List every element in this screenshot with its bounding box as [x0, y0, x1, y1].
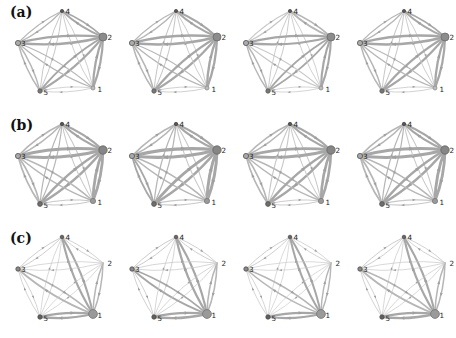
node-label-1: 1 — [440, 311, 445, 320]
arrowhead-1-5 — [401, 204, 404, 207]
node-label-3: 3 — [363, 265, 368, 274]
node-label-2: 2 — [108, 33, 113, 42]
network-panel-b4: 42153 — [342, 113, 456, 225]
node-label-4: 4 — [180, 120, 185, 129]
network-panel-a3: 42153 — [228, 0, 342, 112]
edge-3-5 — [18, 43, 40, 91]
node-label-3: 3 — [249, 152, 254, 161]
node-label-3: 3 — [135, 152, 140, 161]
edge-3-5 — [360, 43, 382, 91]
node-label-4: 4 — [294, 7, 299, 16]
node-label-3: 3 — [249, 265, 254, 274]
arrowhead-5-4 — [162, 267, 164, 270]
node-label-2: 2 — [222, 146, 227, 155]
edge-3-2 — [18, 262, 103, 269]
edge-2-1 — [207, 263, 217, 314]
figure: (a) 42153 42153 42153 42153 (b) 42153 42… — [0, 0, 456, 338]
edge-3-5 — [132, 43, 154, 91]
node-label-2: 2 — [108, 259, 113, 268]
node-2 — [99, 33, 107, 41]
node-4 — [288, 9, 291, 12]
node-label-4: 4 — [66, 120, 71, 129]
node-1 — [89, 310, 98, 319]
arrowhead-5-4 — [390, 267, 392, 270]
network-panel-b2: 42153 — [114, 113, 228, 225]
arrowhead-4-1 — [82, 54, 84, 57]
node-label-1: 1 — [212, 198, 217, 207]
node-4 — [402, 9, 405, 12]
node-3 — [243, 40, 248, 45]
arrowhead-3-5 — [32, 295, 34, 298]
node-label-4: 4 — [294, 120, 299, 129]
edge-2-1 — [321, 37, 331, 88]
row-label-a: (a) — [10, 4, 32, 20]
edge-5-3 — [246, 43, 268, 91]
node-1 — [433, 86, 437, 90]
node-5 — [38, 202, 43, 207]
edge-3-5 — [246, 43, 268, 91]
node-3 — [243, 153, 248, 158]
node-label-5: 5 — [44, 201, 49, 210]
node-label-5: 5 — [272, 88, 277, 97]
edge-1-2 — [321, 37, 331, 88]
node-label-5: 5 — [272, 314, 277, 323]
edge-5-3 — [360, 43, 382, 91]
node-label-4: 4 — [180, 7, 185, 16]
node-label-1: 1 — [326, 198, 331, 207]
node-label-3: 3 — [135, 265, 140, 274]
node-label-2: 2 — [336, 146, 341, 155]
node-5 — [38, 89, 42, 93]
edge-2-1 — [321, 263, 331, 314]
node-1 — [205, 86, 209, 90]
edge-1-2 — [435, 263, 445, 314]
node-3 — [244, 267, 248, 271]
arrowhead-5-3 — [138, 287, 140, 290]
node-3 — [129, 153, 134, 158]
arrowhead-5-1 — [413, 86, 416, 88]
node-2 — [327, 33, 335, 41]
node-label-4: 4 — [66, 7, 71, 16]
node-label-4: 4 — [294, 233, 299, 242]
node-5 — [152, 315, 156, 319]
node-4 — [60, 235, 64, 239]
node-4 — [402, 122, 405, 125]
node-4 — [288, 122, 291, 125]
node-label-3: 3 — [249, 39, 254, 48]
node-label-5: 5 — [272, 201, 277, 210]
node-label-5: 5 — [386, 88, 391, 97]
figure-row-c: (c) 42153 42153 42153 42153 — [0, 226, 456, 338]
arrowhead-1-5 — [402, 91, 405, 93]
arrowhead-5-1 — [71, 86, 74, 88]
node-4 — [174, 235, 178, 239]
arrowhead-5-1 — [299, 86, 302, 88]
node-3 — [129, 40, 134, 45]
node-label-5: 5 — [386, 314, 391, 323]
node-label-5: 5 — [158, 314, 163, 323]
node-3 — [15, 40, 20, 45]
node-1 — [432, 198, 437, 203]
arrowhead-5-1 — [299, 311, 303, 314]
node-3 — [16, 267, 20, 271]
arrowhead-4-1 — [310, 54, 312, 57]
node-label-1: 1 — [326, 85, 331, 94]
edge-5-3 — [18, 43, 40, 91]
edge-2-3 — [360, 263, 445, 270]
node-label-2: 2 — [450, 33, 455, 42]
arrowhead-1-5 — [60, 91, 63, 93]
arrowhead-1-5 — [173, 91, 176, 93]
node-label-1: 1 — [98, 198, 103, 207]
node-label-5: 5 — [44, 314, 49, 323]
arrowhead-2-3 — [51, 269, 54, 271]
figure-row-a: (a) 42153 42153 42153 42153 — [0, 0, 456, 112]
arrowhead-3-5 — [260, 295, 262, 298]
node-5 — [38, 315, 42, 319]
node-2 — [327, 146, 335, 154]
node-1 — [318, 198, 323, 203]
node-5 — [380, 315, 384, 319]
edge-2-1 — [435, 263, 445, 314]
node-label-2: 2 — [450, 146, 455, 155]
arrowhead-1-5 — [287, 204, 290, 206]
node-label-4: 4 — [180, 233, 185, 242]
network-panel-a4: 42153 — [342, 0, 456, 112]
row-label-b: (b) — [10, 117, 33, 133]
